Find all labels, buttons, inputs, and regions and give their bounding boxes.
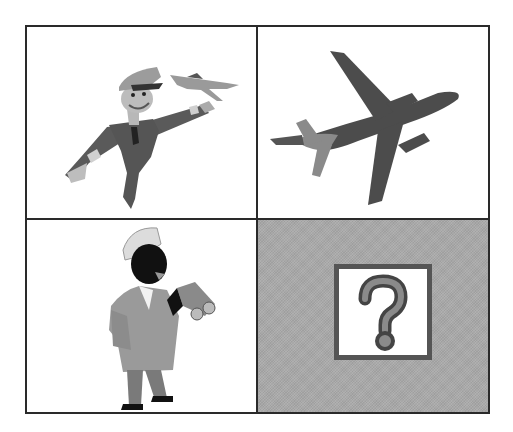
- pilot-icon: [27, 27, 256, 218]
- question-mark-icon: [339, 269, 427, 355]
- cell-airplane: [258, 27, 488, 218]
- cell-pilot: [27, 27, 256, 218]
- question-box[interactable]: [334, 264, 432, 360]
- cell-answer-unknown[interactable]: [258, 220, 488, 412]
- captain-icon: [27, 220, 256, 412]
- airplane-icon: [258, 27, 488, 218]
- analogy-grid: [25, 25, 490, 414]
- cell-captain: [27, 220, 256, 412]
